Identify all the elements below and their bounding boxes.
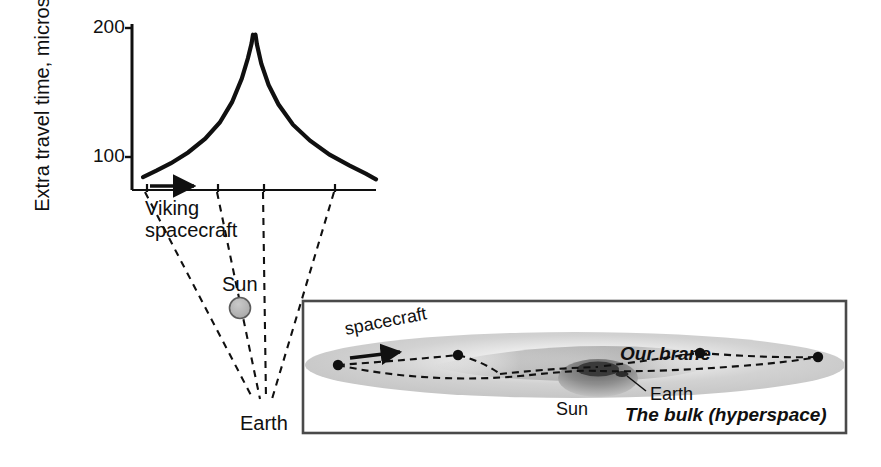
spacecraft-node-2 xyxy=(453,350,463,360)
sightline-3 xyxy=(263,192,266,399)
inset-bulk-label: The bulk (hyperspace) xyxy=(625,405,827,426)
curve-branch-right xyxy=(256,35,377,180)
y-axis-tick-label-200: 200 xyxy=(93,17,125,38)
viking-label-line-2: spacecraft xyxy=(145,220,237,242)
viking-label-line-1: Viking xyxy=(145,198,237,220)
spacecraft-node-1 xyxy=(333,360,343,370)
inset-our-brane-label: Our brane xyxy=(620,344,711,365)
sun-label-outer: Sun xyxy=(222,274,258,296)
chart-curve xyxy=(143,35,376,180)
figure-canvas xyxy=(0,0,881,467)
curve-branch-left xyxy=(143,35,253,177)
viking-spacecraft-label: Viking spacecraft xyxy=(145,198,237,241)
figure-root: Extra travel time, microseconds 200 100 … xyxy=(0,0,881,467)
sun-marker-outer xyxy=(230,298,251,319)
y-axis-tick-label-100: 100 xyxy=(93,146,125,167)
spacecraft-node-4 xyxy=(813,352,823,362)
sun-body-inset xyxy=(577,362,619,377)
earth-label-outer: Earth xyxy=(240,413,288,435)
y-axis-title: Extra travel time, microseconds xyxy=(32,2,54,212)
inset-sun-label: Sun xyxy=(556,400,588,419)
inset-earth-label: Earth xyxy=(650,385,693,404)
